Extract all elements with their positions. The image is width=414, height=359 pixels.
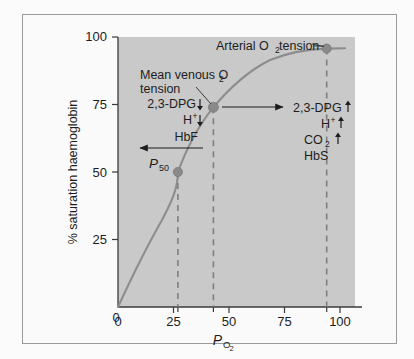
figure-root: 100 75 50 25 0 % saturation haemoglobin … <box>0 0 414 359</box>
svg-text:H: H <box>183 113 192 127</box>
y-tick-label-75: 75 <box>93 97 107 112</box>
svg-text:2,3-DPG: 2,3-DPG <box>147 97 196 111</box>
x-tick-label-75: 75 <box>277 314 291 329</box>
svg-text:2: 2 <box>219 74 224 84</box>
svg-text:H: H <box>321 117 330 131</box>
x-axis-minor-ticks <box>178 307 327 312</box>
x-axis-ticks <box>174 307 341 313</box>
svg-text:tension: tension <box>140 82 180 96</box>
x-tick-label-25: 25 <box>166 314 180 329</box>
svg-text:2: 2 <box>230 344 234 353</box>
svg-text:+: + <box>193 111 198 121</box>
svg-text:HbS: HbS <box>304 149 328 163</box>
oxygen-dissociation-chart: 100 75 50 25 0 % saturation haemoglobin … <box>0 0 414 359</box>
y-axis-title: % saturation haemoglobin <box>66 100 80 245</box>
svg-text:+: + <box>331 115 336 125</box>
svg-text:P: P <box>213 332 223 348</box>
marker-arterial <box>322 44 331 53</box>
y-tick-label-25: 25 <box>93 232 107 247</box>
x-tick-label-100: 100 <box>329 314 351 329</box>
svg-text:Mean venous O: Mean venous O <box>140 68 229 82</box>
x-tick-label-50: 50 <box>222 314 236 329</box>
x-axis-title: P O 2 <box>213 332 234 353</box>
svg-text:CO: CO <box>304 133 323 147</box>
svg-text:P: P <box>149 156 158 171</box>
marker-p50 <box>173 167 182 176</box>
svg-text:2: 2 <box>325 139 330 149</box>
marker-mean-venous <box>208 102 218 112</box>
svg-text:tension: tension <box>279 39 319 53</box>
svg-text:50: 50 <box>159 163 169 173</box>
y-tick-label-50: 50 <box>93 165 107 180</box>
y-tick-label-100: 100 <box>85 29 107 44</box>
svg-text:2,3-DPG: 2,3-DPG <box>293 101 342 115</box>
svg-text:HbF: HbF <box>174 130 198 144</box>
svg-text:Arterial O: Arterial O <box>216 39 269 53</box>
x-tick-label-0: 0 <box>114 314 121 329</box>
y-axis-ticks <box>112 37 118 240</box>
